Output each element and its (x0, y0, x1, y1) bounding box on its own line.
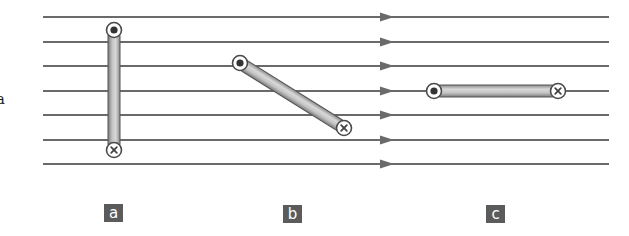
rod-body (434, 85, 558, 97)
field-line (43, 62, 609, 71)
arrow-right-icon (380, 111, 394, 120)
panel-label-a: a (104, 204, 123, 222)
field-line (43, 136, 609, 145)
rod-a (107, 23, 122, 158)
rod-body (237, 58, 347, 133)
panel-label-c: c (486, 205, 505, 223)
arrow-right-icon (380, 62, 394, 71)
current-out-dot-icon (427, 84, 442, 99)
arrow-right-icon (380, 136, 394, 145)
magnetic-field-diagram (0, 0, 629, 236)
current-out-dot-icon (107, 23, 122, 38)
panel-label-b: b (283, 205, 302, 223)
field-line (43, 13, 609, 22)
rod-c (427, 84, 566, 99)
rod-b (233, 56, 352, 136)
current-out-dot-icon (233, 56, 248, 71)
arrow-right-icon (380, 38, 394, 47)
field-line (43, 160, 609, 169)
stray-letter: a (0, 90, 5, 108)
arrow-right-icon (380, 160, 394, 169)
current-in-cross-icon (551, 84, 566, 99)
arrow-right-icon (380, 87, 394, 96)
current-in-cross-icon (107, 143, 122, 158)
field-line (43, 38, 609, 47)
current-in-cross-icon (337, 121, 352, 136)
rod-body (108, 30, 120, 150)
arrow-right-icon (380, 13, 394, 22)
